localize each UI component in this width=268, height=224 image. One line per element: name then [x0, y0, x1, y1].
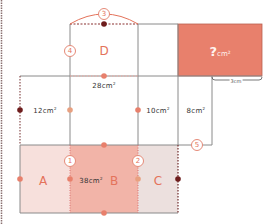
dot-c-right — [175, 176, 181, 182]
dot-b-right — [135, 176, 141, 182]
area-8-label: 8cm2 — [187, 107, 206, 115]
unknown-area-label: ?cm² — [209, 44, 230, 59]
marker-5: 5 — [191, 139, 203, 151]
area-10-label: 10cm2 — [146, 107, 170, 115]
region-d-label: D — [99, 44, 108, 58]
dot-12-right — [67, 107, 73, 113]
area-28-label: 28cm2 — [92, 82, 116, 90]
dot-a-left — [17, 176, 23, 182]
width-3cm-label: 3cm — [230, 78, 243, 84]
dot-12 — [17, 107, 23, 113]
dot-28 — [101, 73, 107, 79]
marker-1: 1 — [64, 155, 76, 167]
marker-2: 2 — [132, 155, 144, 167]
dot-b-bottom — [101, 210, 107, 216]
region-b-label: B — [110, 174, 118, 188]
marker-4: 4 — [64, 45, 76, 57]
area-12-label: 12cm2 — [33, 107, 57, 115]
dot-d-top — [101, 21, 107, 27]
dot-10 — [135, 107, 141, 113]
diagram-canvas: 3 4 1 2 5 D A B C 28cm2 12cm2 10cm2 8cm2… — [0, 0, 268, 224]
region-a-label: A — [39, 174, 47, 188]
marker-3: 3 — [98, 8, 110, 20]
dot-b-top — [101, 142, 107, 148]
area-38-label: 38cm2 — [79, 177, 103, 185]
region-c-label: C — [154, 174, 162, 188]
dot-b-left — [67, 176, 73, 182]
